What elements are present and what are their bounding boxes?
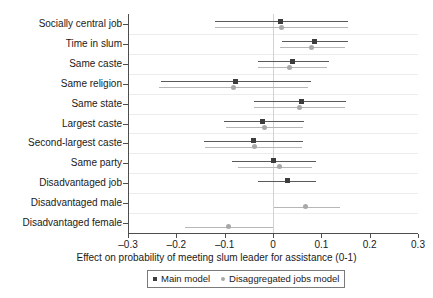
square-marker-icon xyxy=(153,277,157,281)
y-axis-tick xyxy=(123,104,128,105)
y-axis-tick xyxy=(123,124,128,125)
x-axis-tick xyxy=(370,234,371,238)
zero-reference-line xyxy=(273,14,274,233)
x-axis-tick-label: –0.2 xyxy=(156,239,196,250)
category-label: Same state xyxy=(71,99,122,109)
data-point-marker xyxy=(279,25,284,30)
category-label: Disadvantaged female xyxy=(22,218,122,228)
data-point-marker xyxy=(297,105,302,110)
x-axis-tick-label: 0.2 xyxy=(350,239,390,250)
data-point-marker xyxy=(312,39,317,44)
data-point-marker xyxy=(252,144,257,149)
y-axis-tick xyxy=(123,203,128,204)
legend-item-main-model: Main model xyxy=(153,273,210,284)
x-axis-tick-label: –0.1 xyxy=(205,239,245,250)
x-axis-tick xyxy=(225,234,226,238)
data-point-marker xyxy=(285,178,290,183)
data-point-marker xyxy=(277,164,282,169)
data-point-marker xyxy=(233,79,238,84)
category-label: Disadvantaged male xyxy=(31,198,122,208)
x-axis-tick-label: 0.3 xyxy=(398,239,433,250)
y-axis-tick xyxy=(123,223,128,224)
y-axis-line xyxy=(128,14,129,233)
y-axis-tick xyxy=(123,163,128,164)
data-point-marker xyxy=(309,45,314,50)
data-point-marker xyxy=(287,65,292,70)
circle-marker-icon xyxy=(221,277,225,281)
x-axis-tick-label: 0.1 xyxy=(301,239,341,250)
y-axis-tick xyxy=(123,64,128,65)
category-label: Disadvantaged job xyxy=(39,178,122,188)
data-point-marker xyxy=(278,19,283,24)
forest-plot-figure: Socially central jobTime in slumSame cas… xyxy=(0,0,433,298)
y-axis-tick xyxy=(123,84,128,85)
y-axis-tick xyxy=(123,143,128,144)
category-label: Same caste xyxy=(69,59,122,69)
x-axis-tick-label: 0 xyxy=(253,239,293,250)
y-axis-tick xyxy=(123,44,128,45)
y-axis-tick xyxy=(123,24,128,25)
data-point-marker xyxy=(290,59,295,64)
legend-label: Disaggregated jobs model xyxy=(229,273,339,284)
data-point-marker xyxy=(260,119,265,124)
data-point-marker xyxy=(299,99,304,104)
x-axis-title: Effect on probability of meeting slum le… xyxy=(0,252,433,263)
category-label: Same religion xyxy=(61,79,122,89)
x-axis-tick xyxy=(176,234,177,238)
category-label: Time in slum xyxy=(66,39,122,49)
data-point-marker xyxy=(262,125,267,130)
confidence-interval-bar xyxy=(238,167,311,168)
x-axis-tick xyxy=(321,234,322,238)
x-axis-tick xyxy=(128,234,129,238)
confidence-interval-bar xyxy=(258,67,328,68)
x-axis-tick xyxy=(273,234,274,238)
category-label: Same party xyxy=(71,158,122,168)
category-label: Largest caste xyxy=(62,119,122,129)
y-axis-tick xyxy=(123,183,128,184)
legend-label: Main model xyxy=(161,273,210,284)
x-axis-tick-label: –0.3 xyxy=(108,239,148,250)
data-point-marker xyxy=(226,224,231,229)
data-point-marker xyxy=(251,138,256,143)
data-point-marker xyxy=(231,85,236,90)
chart-legend: Main model Disaggregated jobs model xyxy=(147,270,345,288)
legend-item-disaggregated-jobs-model: Disaggregated jobs model xyxy=(221,273,339,284)
category-label: Second-largest caste xyxy=(28,138,122,148)
category-label: Socially central job xyxy=(39,19,122,29)
data-point-marker xyxy=(303,204,308,209)
data-point-marker xyxy=(271,158,276,163)
x-axis-tick xyxy=(418,234,419,238)
